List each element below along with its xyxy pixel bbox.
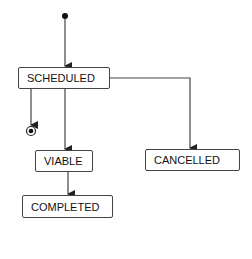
state-label: CANCELLED [154, 154, 220, 166]
state-completed: COMPLETED [22, 195, 113, 218]
state-viable: VIABLE [35, 150, 93, 172]
transition-scheduled-cancelled [110, 78, 190, 148]
state-label: SCHEDULED [27, 72, 95, 84]
diagram-edges [0, 0, 252, 259]
final-state-icon [27, 127, 36, 136]
state-cancelled: CANCELLED [145, 149, 240, 171]
state-scheduled: SCHEDULED [18, 67, 110, 89]
initial-state-icon [62, 13, 68, 19]
state-label: COMPLETED [31, 201, 99, 213]
state-label: VIABLE [44, 155, 83, 167]
